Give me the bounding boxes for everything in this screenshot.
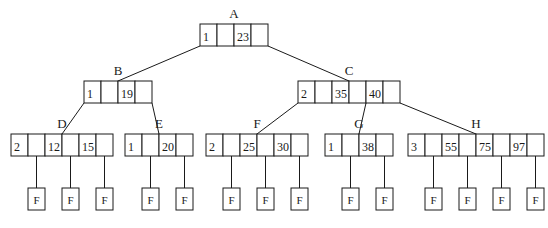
key-value: 40 — [369, 87, 381, 101]
pointer-cell — [315, 81, 332, 103]
leaf-node: F — [425, 188, 442, 210]
node-label: G — [354, 116, 363, 131]
node-d: D21215 — [11, 116, 113, 156]
pointer-cell — [96, 134, 113, 156]
edge-a-b — [118, 46, 200, 81]
leaf-label: F — [101, 194, 107, 206]
node-b: B119 — [84, 63, 152, 103]
leaf-node: F — [28, 188, 45, 210]
leaf-label: F — [67, 194, 73, 206]
edge-c-f — [257, 103, 298, 134]
leaf-label: F — [228, 194, 234, 206]
node-e: E120 — [125, 116, 193, 156]
leaf-label: F — [147, 194, 153, 206]
pointer-cell — [62, 134, 79, 156]
leaf-node: F — [459, 188, 476, 210]
b-tree-diagram: A123B119C23540D21215E120F22530G138H35575… — [0, 0, 548, 228]
edge-c-h — [400, 103, 476, 134]
key-value: 1 — [128, 140, 134, 154]
node-a: A123 — [200, 6, 268, 46]
key-value: 1 — [203, 30, 209, 44]
node-label: D — [57, 116, 66, 131]
key-value: 3 — [411, 140, 417, 154]
node-label: B — [114, 63, 123, 78]
key-value: 38 — [362, 140, 374, 154]
node-h: H3557597 — [408, 116, 544, 156]
pointer-cell — [257, 134, 274, 156]
leaf-label: F — [464, 194, 470, 206]
leaf-node: F — [257, 188, 274, 210]
key-value: 55 — [445, 140, 457, 154]
key-value: 23 — [237, 30, 249, 44]
key-value: 30 — [277, 140, 289, 154]
leaf-label: F — [532, 194, 538, 206]
leaf-node: F — [493, 188, 510, 210]
leaf-label: F — [33, 194, 39, 206]
pointer-cell — [101, 81, 118, 103]
key-value: 2 — [301, 87, 307, 101]
pointer-cell — [527, 134, 544, 156]
pointer-cell — [217, 24, 234, 46]
pointer-cell — [135, 81, 152, 103]
edge-a-c — [268, 46, 349, 81]
pointer-cell — [142, 134, 159, 156]
leaf-node: F — [176, 188, 193, 210]
pointer-cell — [291, 134, 308, 156]
leaf-label: F — [262, 194, 268, 206]
leaf-label: F — [498, 194, 504, 206]
pointer-cell — [425, 134, 442, 156]
leaf-node: F — [376, 188, 393, 210]
key-value: 1 — [87, 87, 93, 101]
node-label: H — [471, 116, 480, 131]
key-value: 2 — [209, 140, 215, 154]
node-label: A — [229, 6, 239, 21]
tree-nodes: A123B119C23540D21215E120F22530G138H35575… — [11, 6, 544, 156]
pointer-cell — [223, 134, 240, 156]
key-value: 19 — [121, 87, 133, 101]
leaf-label: F — [296, 194, 302, 206]
pointer-cell — [176, 134, 193, 156]
key-value: 2 — [14, 140, 20, 154]
leaf-node: F — [62, 188, 79, 210]
node-f: F22530 — [206, 116, 308, 156]
node-g: G138 — [325, 116, 393, 156]
leaf-label: F — [181, 194, 187, 206]
leaf-label: F — [347, 194, 353, 206]
leaf-nodes: FFFFFFFFFFFFFF — [28, 156, 544, 210]
key-value: 97 — [513, 140, 525, 154]
leaf-label: F — [430, 194, 436, 206]
node-c: C23540 — [298, 63, 400, 103]
node-label: E — [155, 116, 163, 131]
pointer-cell — [493, 134, 510, 156]
node-label: C — [345, 63, 354, 78]
leaf-node: F — [142, 188, 159, 210]
leaf-node: F — [96, 188, 113, 210]
leaf-node: F — [291, 188, 308, 210]
key-value: 75 — [479, 140, 491, 154]
leaf-node: F — [527, 188, 544, 210]
pointer-cell — [342, 134, 359, 156]
key-value: 25 — [243, 140, 255, 154]
key-value: 12 — [48, 140, 60, 154]
key-value: 15 — [82, 140, 94, 154]
leaf-node: F — [342, 188, 359, 210]
node-label: F — [253, 116, 260, 131]
pointer-cell — [251, 24, 268, 46]
pointer-cell — [349, 81, 366, 103]
pointer-cell — [383, 81, 400, 103]
pointer-cell — [376, 134, 393, 156]
key-value: 1 — [328, 140, 334, 154]
leaf-node: F — [223, 188, 240, 210]
pointer-cell — [28, 134, 45, 156]
key-value: 20 — [162, 140, 174, 154]
key-value: 35 — [335, 87, 347, 101]
leaf-label: F — [381, 194, 387, 206]
pointer-cell — [459, 134, 476, 156]
